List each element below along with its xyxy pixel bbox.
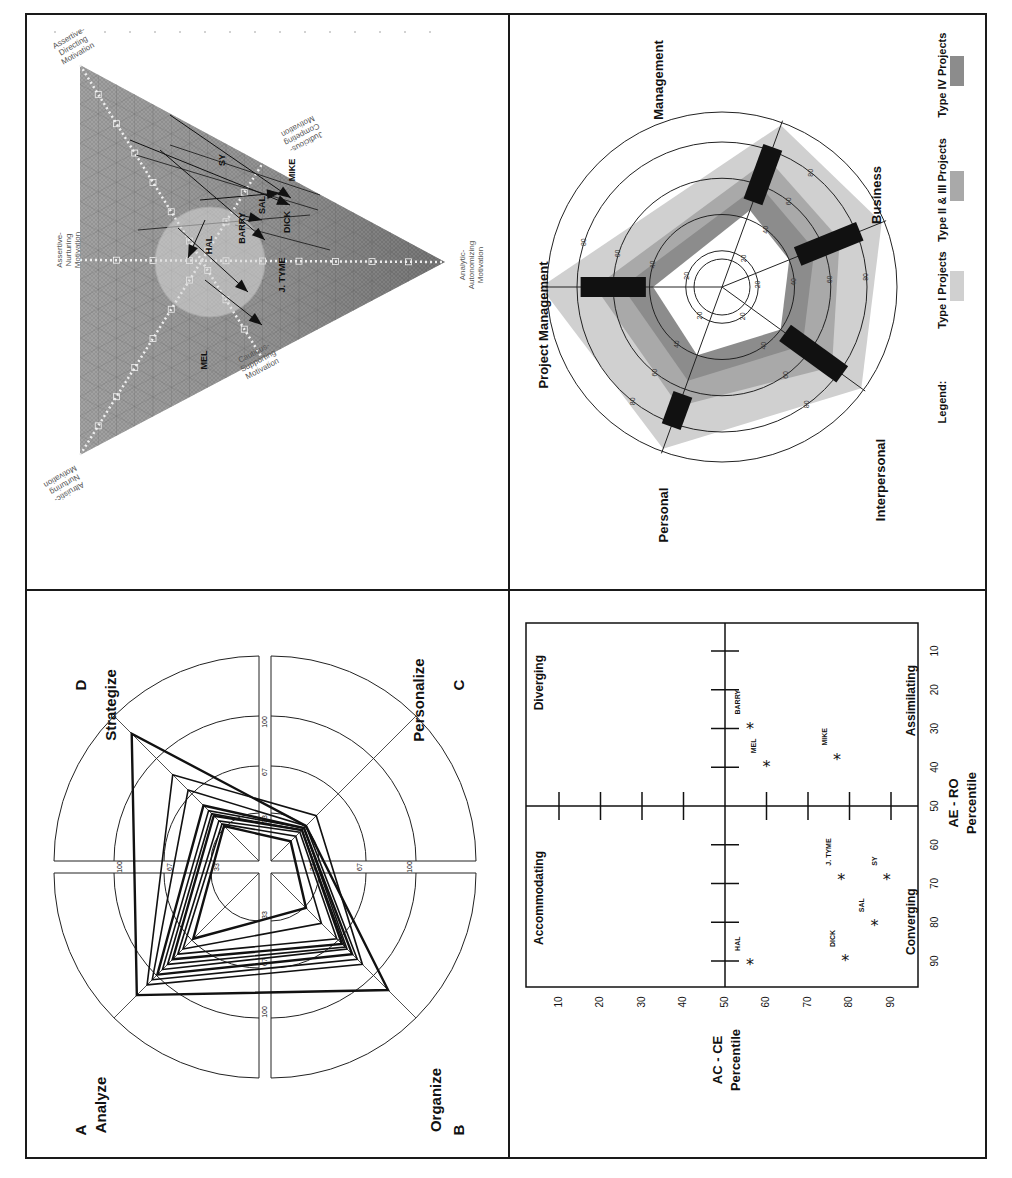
ring-tick-label: 80 — [862, 273, 869, 281]
point-label: SY — [871, 856, 878, 866]
x-tick-label: 80 — [843, 996, 854, 1008]
point-label: MEL — [750, 738, 757, 754]
x-tick-label: 40 — [677, 996, 688, 1008]
grid-dot — [229, 31, 231, 33]
tick-label: 100 — [261, 716, 268, 728]
point-label: J. TYME — [825, 838, 832, 866]
quadrant-label: Diverging — [532, 655, 546, 710]
quadrant-label: Strategize — [102, 669, 119, 741]
ring-tick-label: 60 — [826, 275, 833, 283]
page-canvas: HALBARRYSALDICKJ. TYMESYMIKEMEL Assertiv… — [0, 0, 1012, 1178]
y-tick-label: 30 — [929, 723, 940, 735]
top-dot-row — [54, 31, 431, 33]
x-tick-label: 70 — [802, 996, 813, 1008]
x-tick-label: 50 — [719, 996, 730, 1008]
y-axis-label: AE - RO — [946, 778, 961, 827]
x-tick-label: 90 — [885, 996, 896, 1008]
person-label: DICK — [282, 211, 292, 233]
quadrant-label: Organize — [427, 1068, 444, 1132]
y-tick-label: 50 — [929, 800, 940, 812]
ring-tick-label: 40 — [760, 342, 767, 350]
y-tick-label: 90 — [929, 955, 940, 967]
data-point: * — [883, 870, 891, 889]
quadrant-letter: D — [72, 679, 89, 690]
vertex-label-line: Analytic- — [458, 249, 467, 280]
legend-label: Type IV Projects — [936, 33, 948, 118]
ring-tick-label: 60 — [651, 369, 658, 377]
vertex-label: Assertive-NurturingMotivation — [55, 232, 82, 268]
ring-tick-label: 20 — [696, 312, 703, 320]
tick-label: 100 — [406, 861, 413, 873]
tick-label: 67 — [261, 768, 268, 776]
ring-tick-label: 80 — [807, 169, 814, 177]
grid-dot — [379, 31, 381, 33]
y-tick-label: 60 — [929, 839, 940, 851]
person-label: SAL — [257, 195, 267, 214]
score-bar — [581, 277, 646, 297]
point-label: DICK — [829, 930, 836, 947]
person-label: HAL — [204, 235, 214, 254]
center-circle — [155, 207, 265, 317]
ring-tick-label: 40 — [762, 226, 769, 234]
point-label: HAL — [734, 936, 741, 951]
axis-label: Personal — [656, 488, 671, 543]
x-tick-label: 10 — [553, 996, 564, 1008]
tick-label: 67 — [356, 863, 363, 871]
legend-swatch — [950, 271, 964, 301]
grid-dot — [279, 31, 281, 33]
axis-label: Interpersonal — [873, 439, 888, 521]
grid-dot — [179, 31, 181, 33]
legend-swatch — [950, 56, 964, 86]
ring-tick-label: 60 — [785, 197, 792, 205]
y-tick-label: 40 — [929, 761, 940, 773]
data-point: * — [746, 955, 754, 974]
vertex-label-line: Motivation — [476, 247, 485, 283]
grid-dot — [254, 31, 256, 33]
grid-dot — [129, 31, 131, 33]
x-tick-label: 20 — [594, 996, 605, 1008]
x-tick-label: 60 — [760, 996, 771, 1008]
grid-dot — [404, 31, 406, 33]
legend-label: Type I Projects — [936, 251, 948, 328]
vertex-label: Judicious-CompetingMotivation — [279, 113, 326, 155]
quadrant-label: Converging — [904, 888, 918, 955]
grid-dot — [304, 31, 306, 33]
vertex-label: Analytic-AutonomizingMotivation — [458, 241, 485, 289]
ring-tick-label: 20 — [740, 254, 747, 262]
y-tick-label: 10 — [929, 645, 940, 657]
plot-box — [526, 623, 918, 987]
y-axis-label-sub: Percentile — [964, 772, 979, 834]
ring-tick-label: 60 — [614, 249, 621, 257]
ring-tick-label: 80 — [803, 400, 810, 408]
diagonal — [271, 873, 416, 1018]
ring-tick-label: 40 — [790, 278, 797, 286]
grid-dot — [204, 31, 206, 33]
tick-label: 100 — [116, 861, 123, 873]
grid-dot — [329, 31, 331, 33]
quadrant-letter: B — [450, 1124, 467, 1135]
ring-tick-label: 40 — [649, 261, 656, 269]
data-point: * — [870, 916, 878, 935]
point-label: MIKE — [821, 728, 828, 746]
tick-label: 100 — [261, 1006, 268, 1018]
vertex-label-line: Motivation — [73, 232, 82, 268]
quadrant-letter: C — [450, 679, 467, 690]
tick-label: 67 — [166, 863, 173, 871]
quadrant-label: Accommodating — [532, 851, 546, 945]
x-axis-label: AC - CE — [710, 1035, 725, 1084]
quadrant-label: Assimilating — [904, 665, 918, 736]
ring-tick-label: 20 — [754, 280, 761, 288]
axis-label: Management — [651, 40, 666, 120]
vertex-label-line: Assertive- — [55, 232, 64, 268]
data-point: * — [746, 719, 754, 738]
brain-radar-chart: 3333333367676767100100100100AAnalyzeBOrg… — [54, 656, 476, 1135]
quadrant-label: Analyze — [92, 1077, 109, 1134]
vertex-label-line: Autonomizing — [467, 241, 476, 289]
vertex-label: Altruistic-NurturingMotivation — [42, 464, 87, 506]
person-label: SY — [217, 154, 227, 166]
point-label: SAL — [858, 897, 865, 912]
legend-label: Type II & III Projects — [936, 138, 948, 242]
quadrant-letter: A — [72, 1124, 89, 1135]
x-axis-label-sub: Percentile — [728, 1029, 743, 1091]
person-label: MIKE — [287, 159, 297, 182]
